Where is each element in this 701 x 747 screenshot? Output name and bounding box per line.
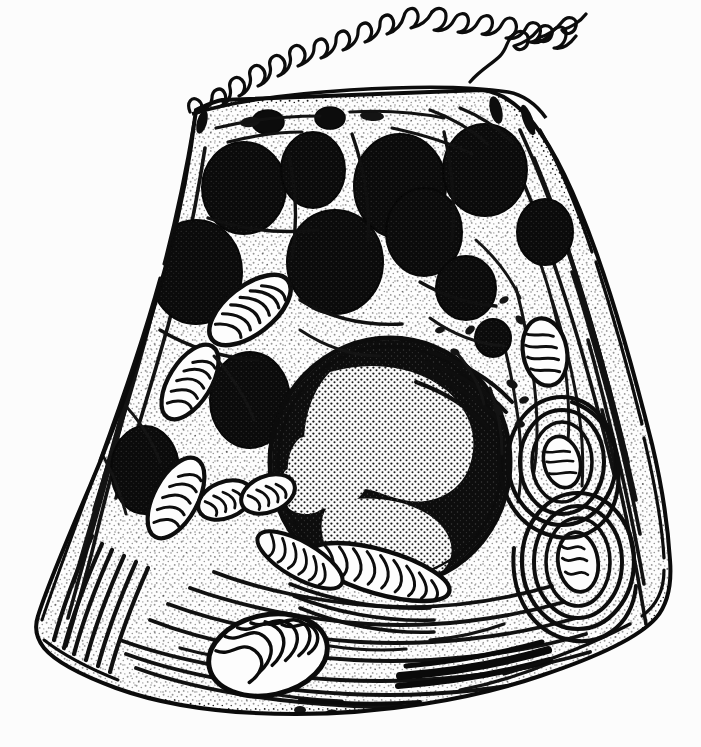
secretory-granule [517,199,573,265]
secretory-granule [315,107,345,129]
figure-root: Diagrammatic drawing of a secretory (exo… [0,0,701,747]
secretory-granule [475,319,511,357]
secretory-granule [443,124,527,216]
secretory-granule [436,256,496,320]
cell-ultrastructure-drawing [0,0,701,747]
